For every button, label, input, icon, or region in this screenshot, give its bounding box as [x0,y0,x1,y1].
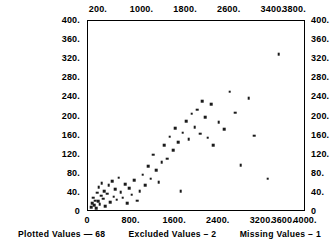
excluded-values-label: Excluded Values – 2 [129,229,217,239]
axis-bottom-tick: 0 [84,215,89,225]
data-point [194,126,197,129]
axis-left-tick: 280. [36,72,80,82]
axis-top-tick: 3400. [261,4,285,14]
axis-bottom-tick: 2400. [206,215,230,225]
axis-top-tick: 1000. [130,4,154,14]
data-point [212,144,215,147]
data-point [158,181,161,184]
data-point [190,112,193,115]
axis-left-tick: 80. [36,168,80,178]
data-point [188,138,191,141]
data-point [104,205,107,208]
data-point [172,149,175,152]
plot-frame [87,20,305,211]
data-point [126,202,129,205]
axis-left-tick: 400. [36,15,80,25]
data-point [130,194,133,197]
axis-right-tick: 160. [311,130,335,140]
axis-right-tick: 280. [311,72,335,82]
data-point [95,207,98,210]
data-point [98,186,101,189]
data-point [116,198,119,201]
axis-left-tick: 120. [36,149,80,159]
data-point [267,177,270,180]
data-point [228,90,231,93]
data-point [199,132,202,135]
plotted-values-label: Plotted Values — 68 [18,229,105,239]
axis-right-tick: 40. [311,187,335,197]
data-point [144,184,147,187]
axis-bottom-tick: 800. [121,215,139,225]
data-point [117,176,120,179]
missing-values-label: Missing Values – 1 [240,229,321,239]
data-point [141,173,144,176]
axis-top-tick: 2600. [217,4,241,14]
axis-bottom-tick: 4000. [293,215,317,225]
data-point [163,144,166,147]
data-point [239,164,242,167]
data-point [122,196,125,199]
axis-top-tick: 1800. [173,4,197,14]
data-point [96,192,99,195]
data-point [114,188,117,191]
data-point [182,131,185,134]
data-point [138,190,141,193]
axis-right-tick: 200. [311,111,335,121]
axis-top-tick: 200. [89,4,107,14]
data-point [174,127,177,130]
axis-bottom-tick: 3200. [250,215,274,225]
data-point [196,109,199,112]
data-point [102,197,105,200]
data-point [149,177,152,180]
data-point [166,157,169,160]
data-point [210,103,213,106]
data-point [112,195,115,198]
axis-left-tick: 240. [36,91,80,101]
axis-top-tick: 3800. [282,4,306,14]
plot-data-area [88,21,304,210]
axis-right-tick: 240. [311,91,335,101]
data-point [204,116,207,119]
data-point [133,179,136,182]
data-point [111,180,114,183]
axis-right-tick: 320. [311,53,335,63]
axis-left-tick: 200. [36,111,80,121]
data-point [109,201,112,204]
axis-left-tick: 320. [36,53,80,63]
data-point [277,53,280,56]
axis-right-tick: 360. [311,34,335,44]
data-point [119,191,122,194]
axis-right-tick: 120. [311,149,335,159]
data-point [185,120,188,123]
data-point [179,190,182,193]
axis-left-tick: 160. [36,130,80,140]
data-point [152,153,155,156]
data-point [168,135,171,138]
axis-left-tick: 360. [36,34,80,44]
data-point [128,187,131,190]
axis-right-tick: 400. [311,15,335,25]
data-point [160,161,163,164]
data-point [253,134,256,137]
data-point [98,203,101,206]
scatter-plot-figure: 200.1000.1800.2600.3400.3800. 0800.1600.… [0,0,335,246]
data-point [223,128,226,131]
data-point [247,97,250,100]
axis-bottom-tick: 1600. [162,215,186,225]
data-point [234,111,237,114]
data-point [124,183,127,186]
data-point [147,165,150,168]
axis-right-tick: 80. [311,168,335,178]
data-point [218,121,221,124]
figure-footer: Plotted Values — 68 Excluded Values – 2 … [0,229,335,239]
data-point [101,182,104,185]
data-point [177,141,180,144]
axis-bottom-tick: 3600. [271,215,295,225]
data-point [155,169,158,172]
data-point [207,136,210,139]
axis-left-tick: 40. [36,187,80,197]
data-point [107,184,110,187]
data-point [201,100,204,103]
axis-left-tick: 0 [36,206,80,216]
data-point [136,199,139,202]
